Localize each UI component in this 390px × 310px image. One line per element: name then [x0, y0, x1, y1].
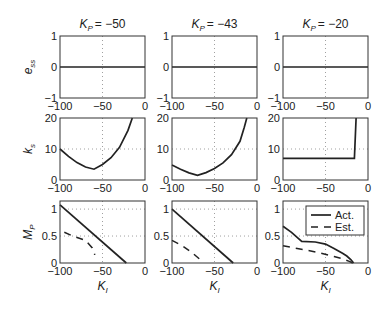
- y-tick-label: 20: [157, 112, 169, 124]
- subplot-title: KP= −50: [79, 17, 125, 33]
- x-tick-label: 0: [142, 100, 148, 112]
- y-axis-label-group: ks: [21, 144, 37, 154]
- x-tick-label: 0: [365, 100, 371, 112]
- y-axis-label: ess: [21, 60, 37, 75]
- x-tick-label: −100: [160, 100, 185, 112]
- y-tick-label: 1: [163, 30, 169, 42]
- x-tick-label: −50: [205, 182, 224, 194]
- x-tick-label: −100: [48, 182, 73, 194]
- subplot-title: KP= −20: [302, 17, 348, 33]
- x-tick-label: −50: [205, 265, 224, 277]
- estimated-line: [283, 246, 353, 263]
- subplot-ess-kp50: 10−1−100−500KP= −50ess: [21, 17, 148, 112]
- x-tick-label: −50: [93, 182, 112, 194]
- x-tick-label: −50: [93, 265, 112, 277]
- y-tick-label: 0: [51, 61, 57, 73]
- x-tick-label: −50: [93, 100, 112, 112]
- y-tick-label: 1: [51, 203, 57, 215]
- x-axis-label: KI: [320, 279, 331, 295]
- x-tick-label: 0: [254, 265, 260, 277]
- x-tick-label: 0: [142, 182, 148, 194]
- actual-line: [60, 205, 126, 263]
- x-axis-label: KI: [97, 279, 108, 295]
- y-tick-label: 10: [157, 143, 169, 155]
- y-tick-label: 0: [274, 61, 280, 73]
- y-tick-label: 10: [268, 143, 280, 155]
- x-tick-label: −100: [160, 265, 185, 277]
- subplot-mp-kp50: 10.50−100−500KIMP: [21, 201, 148, 295]
- x-axis-label: KI: [209, 279, 220, 295]
- y-axis-label-group: MP: [21, 224, 37, 240]
- y-tick-label: 0.5: [42, 230, 57, 242]
- y-tick-label: 10: [45, 143, 57, 155]
- x-tick-label: −100: [271, 265, 296, 277]
- y-tick-label: 20: [45, 112, 57, 124]
- x-tick-label: 0: [365, 182, 371, 194]
- subplot-ess-kp20: 10−1−100−500KP= −20: [267, 17, 371, 112]
- y-tick-label: 1: [274, 203, 280, 215]
- x-tick-label: −50: [316, 100, 335, 112]
- y-tick-label: 1: [163, 203, 169, 215]
- x-tick-label: −50: [205, 100, 224, 112]
- subplot-ess-kp43: 10−1−100−500KP= −43: [156, 17, 260, 112]
- subplot-ks-kp20: 20100−100−500: [268, 112, 371, 194]
- x-tick-label: 0: [254, 182, 260, 194]
- y-tick-label: 0.5: [265, 230, 280, 242]
- legend-label: Act.: [335, 209, 354, 221]
- y-axis-label: ks: [21, 144, 37, 154]
- subplot-ks-kp50: 20100−100−500ks: [21, 112, 148, 194]
- x-tick-label: −50: [316, 265, 335, 277]
- actual-line: [60, 118, 132, 169]
- x-tick-label: −100: [48, 265, 73, 277]
- subplot-mp-kp20: 10.50−100−500KIAct.Est.: [265, 201, 371, 295]
- x-tick-label: −100: [271, 182, 296, 194]
- figure: 10−1−100−500KP= −50ess10−1−100−500KP= −4…: [0, 0, 390, 310]
- y-axis-label-group: ess: [21, 60, 37, 75]
- x-tick-label: 0: [142, 265, 148, 277]
- x-tick-label: 0: [365, 265, 371, 277]
- y-tick-label: 20: [268, 112, 280, 124]
- subplot-title: KP= −43: [191, 17, 237, 33]
- legend-label: Est.: [335, 221, 354, 233]
- y-axis-label: MP: [21, 224, 37, 240]
- x-tick-label: −100: [48, 100, 73, 112]
- y-tick-label: 0.5: [154, 230, 169, 242]
- y-tick-label: 1: [274, 30, 280, 42]
- x-tick-label: 0: [254, 100, 260, 112]
- x-tick-label: −100: [160, 182, 185, 194]
- y-tick-label: 1: [51, 30, 57, 42]
- x-tick-label: −50: [316, 182, 335, 194]
- legend: Act.Est.: [306, 206, 364, 235]
- subplot-ks-kp43: 20100−100−500: [157, 112, 260, 194]
- estimated-line: [172, 240, 202, 263]
- x-tick-label: −100: [271, 100, 296, 112]
- y-tick-label: 0: [163, 61, 169, 73]
- subplot-mp-kp43: 10.50−100−500KI: [154, 201, 260, 295]
- actual-line: [172, 118, 247, 175]
- actual-line: [283, 118, 356, 158]
